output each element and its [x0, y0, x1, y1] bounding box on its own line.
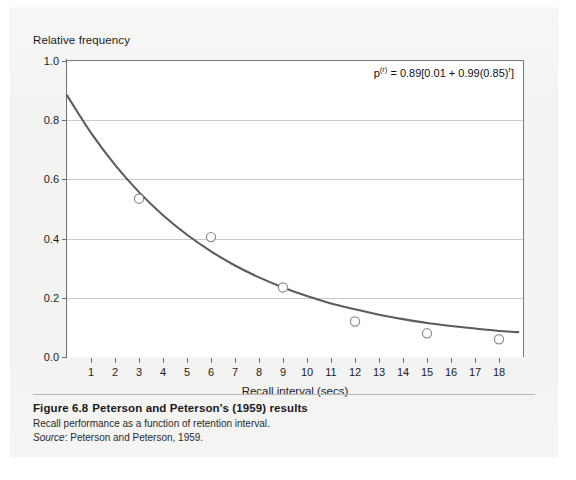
- x-tick-mark: [235, 358, 236, 363]
- source-label: Source: [33, 432, 65, 443]
- caption-title: Figure 6.8Peterson and Peterson's (1959)…: [33, 402, 538, 414]
- figure-number: Figure 6.8: [33, 402, 88, 414]
- x-tick-label: 16: [440, 367, 462, 378]
- x-tick-mark: [187, 358, 188, 363]
- y-tick-label: 0.0: [29, 352, 59, 363]
- x-tick-mark: [331, 358, 332, 363]
- x-tick-mark: [451, 358, 452, 363]
- x-tick-label: 17: [464, 367, 486, 378]
- x-tick-label: 3: [128, 367, 150, 378]
- x-tick-mark: [163, 358, 164, 363]
- x-tick-mark: [115, 358, 116, 363]
- x-tick-label: 14: [392, 367, 414, 378]
- caption-subtitle: Recall performance as a function of rete…: [33, 418, 538, 429]
- x-tick-mark: [259, 358, 260, 363]
- data-point-marker: [350, 317, 359, 326]
- y-tick-mark: [62, 357, 67, 358]
- x-tick-label: 4: [152, 367, 174, 378]
- x-axis-title: Recall interval (secs): [67, 385, 523, 397]
- page-background: Relative frequency p(r) = 0.89[0.01 + 0.…: [0, 0, 576, 480]
- x-tick-label: 5: [176, 367, 198, 378]
- x-tick-mark: [355, 358, 356, 363]
- source-text: : Peterson and Peterson, 1959.: [65, 432, 203, 443]
- x-tick-label: 7: [224, 367, 246, 378]
- data-point-marker: [494, 335, 503, 344]
- x-tick-mark: [283, 358, 284, 363]
- x-tick-label: 11: [320, 367, 342, 378]
- x-tick-mark: [139, 358, 140, 363]
- x-tick-mark: [499, 358, 500, 363]
- x-tick-label: 15: [416, 367, 438, 378]
- x-tick-mark: [475, 358, 476, 363]
- figure-caption: Figure 6.8Peterson and Peterson's (1959)…: [33, 402, 538, 443]
- x-tick-mark: [211, 358, 212, 363]
- y-tick-label: 0.8: [29, 115, 59, 126]
- data-point-marker: [278, 283, 287, 292]
- x-tick-label: 9: [272, 367, 294, 378]
- x-tick-label: 1: [80, 367, 102, 378]
- y-tick-label: 0.6: [29, 174, 59, 185]
- figure-container: Relative frequency p(r) = 0.89[0.01 + 0.…: [10, 8, 558, 457]
- caption-source: Source: Peterson and Peterson, 1959.: [33, 432, 538, 443]
- x-tick-mark: [307, 358, 308, 363]
- x-tick-label: 12: [344, 367, 366, 378]
- data-point-marker: [422, 329, 431, 338]
- y-axis-title: Relative frequency: [33, 34, 130, 46]
- x-tick-label: 8: [248, 367, 270, 378]
- caption-title-text: Peterson and Peterson's (1959) results: [92, 402, 308, 414]
- caption-divider: [33, 394, 535, 395]
- x-tick-mark: [91, 358, 92, 363]
- x-tick-mark: [379, 358, 380, 363]
- plot-area: p(r) = 0.89[0.01 + 0.99(0.85)r] 0.00.20.…: [67, 60, 524, 357]
- x-tick-label: 6: [200, 367, 222, 378]
- x-tick-mark: [403, 358, 404, 363]
- data-point-marker: [134, 194, 143, 203]
- x-tick-label: 10: [296, 367, 318, 378]
- x-tick-mark: [427, 358, 428, 363]
- chart-canvas: [67, 61, 523, 357]
- y-tick-label: 0.2: [29, 293, 59, 304]
- x-tick-label: 18: [488, 367, 510, 378]
- data-point-markers: [134, 194, 503, 344]
- data-point-marker: [206, 233, 215, 242]
- x-tick-label: 13: [368, 367, 390, 378]
- y-tick-label: 0.4: [29, 234, 59, 245]
- fitted-curve-line: [67, 95, 518, 332]
- x-tick-label: 2: [104, 367, 126, 378]
- y-tick-label: 1.0: [29, 56, 59, 67]
